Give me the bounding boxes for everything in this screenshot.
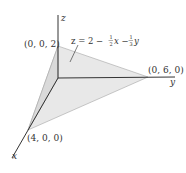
equation-frac1-den: 2 bbox=[110, 41, 113, 47]
equation-frac2-num: 1 bbox=[130, 34, 133, 40]
plane-diagram: z y x (0, 0, 2) (0, 6, 0) (4, 0, 0) z = … bbox=[0, 0, 186, 173]
y-axis-label: y bbox=[169, 77, 176, 87]
point-label-y-intercept: (0, 6, 0) bbox=[148, 65, 184, 75]
plane-equation: z = 2 − 1 2 x − 1 3 y bbox=[71, 34, 139, 47]
equation-prefix: z = 2 − bbox=[71, 36, 103, 46]
point-label-x-intercept: (4, 0, 0) bbox=[27, 133, 63, 143]
point-label-z-intercept: (0, 0, 2) bbox=[24, 39, 60, 49]
equation-frac1-num: 1 bbox=[110, 34, 113, 40]
equation-frac2-den: 3 bbox=[130, 41, 133, 47]
z-axis-label: z bbox=[60, 13, 66, 23]
equation-mid: x − bbox=[114, 36, 129, 46]
equation-suffix: y bbox=[133, 36, 139, 46]
x-axis-label: x bbox=[12, 151, 17, 161]
